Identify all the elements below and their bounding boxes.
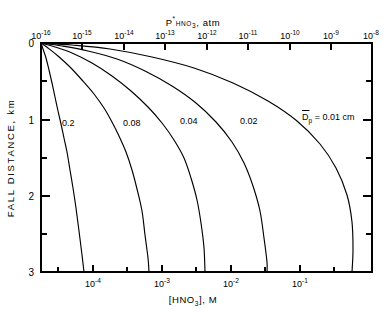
bottom-axis-title-main: HNO (172, 294, 195, 305)
bottom-axis-title-units: , M (202, 294, 217, 305)
svg-text:P*HNO3, atm: P*HNO3, atm (166, 15, 221, 29)
curve-0-02 (41, 43, 267, 272)
y-tick-label-1: 1 (28, 115, 34, 126)
bottom-axis-tick-labels: 10-4 10-3 10-2 10-1 (85, 277, 308, 289)
top-tick-label-5: 10-11 (239, 29, 258, 41)
y-tick-label-0: 0 (28, 38, 34, 49)
top-axis-title: P*HNO3, atm (166, 15, 221, 29)
top-axis-tick-labels: 10-16 10-15 10-14 10-13 10-12 10-11 10-1… (31, 29, 379, 41)
top-axis-ticks (82, 43, 331, 50)
right-axis-ticks (363, 81, 372, 234)
curve-label-0-01: Dp = 0.01 cm (302, 112, 354, 125)
curve-0-01 (41, 43, 353, 272)
curve-label-0-08: 0.08 (123, 118, 141, 128)
y-tick-label-3: 3 (28, 267, 34, 278)
bottom-tick-label-1: 10-3 (154, 277, 170, 289)
curve-label-0-01-suffix: = 0.01 cm (312, 112, 354, 122)
curve-labels: 0.2 0.08 0.04 0.02 Dp = 0.01 cm (62, 111, 354, 129)
curve-0-2 (41, 43, 84, 272)
top-tick-label-3: 10-13 (155, 29, 175, 41)
svg-text:[HNO3], M: [HNO3], M (169, 294, 218, 307)
plot-frame (41, 43, 372, 272)
curve-0-08 (41, 43, 149, 272)
left-axis-ticks (41, 81, 50, 234)
bottom-tick-label-3: 10-1 (292, 277, 308, 289)
curve-label-0-2: 0.2 (62, 118, 75, 128)
bottom-tick-label-0: 10-4 (85, 277, 101, 289)
top-tick-label-0: 10-16 (31, 29, 51, 41)
top-tick-label-2: 10-14 (114, 29, 134, 41)
fall-distance-chart-figure: P*HNO3, atm 10-16 10-15 10-14 10-13 10-1… (0, 0, 386, 309)
curve-label-0-02: 0.02 (240, 116, 258, 126)
curve-0-04 (41, 43, 205, 272)
top-axis-title-units: , atm (196, 17, 220, 28)
bottom-axis-title: [HNO3], M (169, 294, 218, 307)
data-curves (41, 43, 353, 272)
top-tick-label-1: 10-15 (72, 29, 92, 41)
top-tick-label-4: 10-12 (197, 29, 217, 41)
top-tick-label-8: 10-8 (363, 29, 379, 41)
top-axis-title-main: P (166, 17, 173, 28)
curve-label-0-04: 0.04 (180, 116, 198, 126)
bottom-axis-ticks (58, 265, 334, 272)
y-tick-label-2: 2 (28, 191, 34, 202)
chart-canvas: P*HNO3, atm 10-16 10-15 10-14 10-13 10-1… (0, 0, 386, 309)
bottom-tick-label-2: 10-2 (223, 277, 239, 289)
top-tick-label-7: 10-9 (323, 29, 339, 41)
top-tick-label-6: 10-10 (280, 29, 300, 41)
y-axis-title-text: FALL DISTANCE, km (5, 99, 16, 218)
y-axis-title: FALL DISTANCE, km (5, 99, 16, 218)
top-axis-title-subscript: HNO (176, 20, 192, 27)
y-axis-tick-labels: 0 1 2 3 (28, 38, 34, 278)
